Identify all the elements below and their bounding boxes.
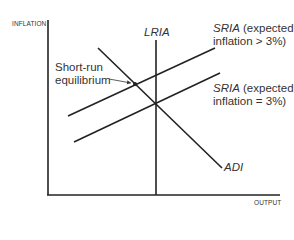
sria-high-line2: inflation > 3%) <box>213 35 286 47</box>
y-axis-label: INFLATION <box>12 20 46 27</box>
adi-label: ADI <box>224 161 243 174</box>
sria-base-label: SRIA (expected inflation = 3%) <box>213 82 294 107</box>
annotation-arrow <box>109 79 131 83</box>
sria-high-suffix: (expected <box>240 22 294 34</box>
sria-base-suffix: (expected <box>240 82 294 94</box>
sria-high-name: SRIA <box>213 22 240 34</box>
annotation-line2: equilibrium <box>55 74 111 86</box>
annotation-line1: Short-run <box>55 61 103 73</box>
x-axis-label: OUTPUT <box>254 199 281 206</box>
sria-base-name: SRIA <box>213 82 240 94</box>
sria-base-line2: inflation = 3%) <box>213 95 286 107</box>
adi-line <box>98 48 222 168</box>
lria-label: LRIA <box>144 26 170 39</box>
sria-high-label: SRIA (expected inflation > 3%) <box>213 22 294 47</box>
short-run-equilibrium-label: Short-run equilibrium <box>55 61 111 86</box>
short-run-equilibrium-point <box>133 82 137 86</box>
